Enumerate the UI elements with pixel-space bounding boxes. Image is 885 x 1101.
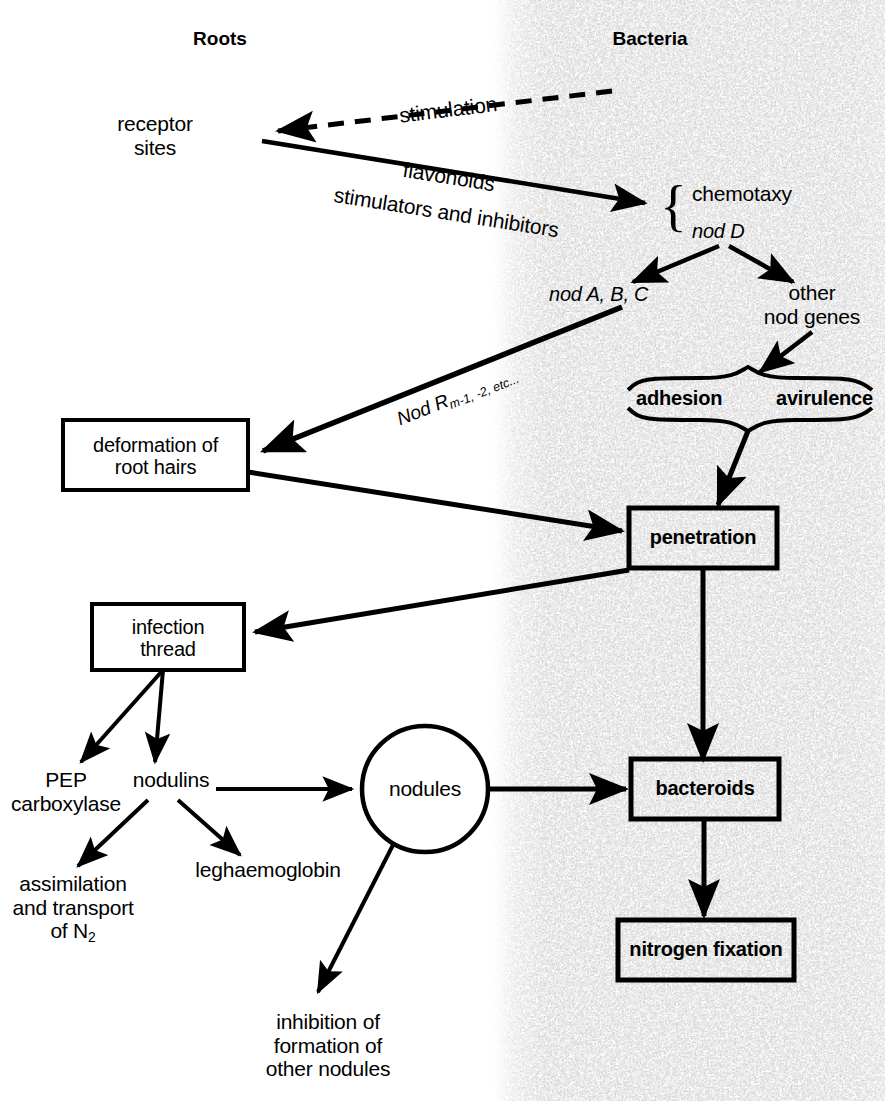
column-header-roots: Roots: [150, 28, 290, 49]
node-assimilation-text: assimilation and transport of N: [12, 872, 133, 942]
node-nodules: nodules: [365, 777, 485, 801]
column-header-bacteria: Bacteria: [570, 28, 730, 49]
node-leghaemoglobin: leghaemoglobin: [178, 858, 358, 882]
node-nitrogen-fixation: nitrogen fixation: [618, 938, 794, 960]
edge-nodulins-to-leghaemoglobin: [178, 800, 240, 855]
edge-nodd-to-nodabc: [633, 246, 719, 282]
node-nod-d: nod D: [692, 220, 744, 242]
node-bacteroids: bacteroids: [631, 777, 779, 799]
edge-infection-to-nodulins: [155, 670, 163, 762]
edge-label-nod-r-main: Nod R: [394, 390, 452, 429]
edge-penetration-to-infection: [255, 570, 629, 632]
node-assimilation-subscript: 2: [88, 929, 96, 945]
node-penetration: penetration: [629, 526, 777, 548]
node-assimilation-transport: assimilation and transport of N2: [3, 872, 143, 945]
node-nodulins: nodulins: [125, 768, 217, 792]
edge-deformation-to-penetration: [248, 472, 622, 531]
brace-bottom-adhesion: [628, 408, 872, 431]
diagram-canvas: Roots Bacteria receptor sites stimulatio…: [0, 0, 885, 1101]
edge-nodd-to-othernod: [729, 246, 793, 282]
node-inhibition-other-nodules: inhibition of formation of other nodules: [228, 1010, 428, 1081]
node-adhesion: adhesion: [636, 387, 722, 409]
edge-othernod-to-brace: [760, 332, 812, 372]
node-avirulence: avirulence: [776, 387, 873, 409]
node-infection-thread: infection thread: [92, 616, 244, 661]
node-deformation-of-root-hairs: deformation of root hairs: [63, 434, 248, 479]
node-other-nod-genes: other nod genes: [742, 281, 882, 328]
node-receptor-sites: receptor sites: [90, 112, 220, 159]
node-pep-carboxylase: PEP carboxylase: [6, 768, 126, 815]
node-chemotaxy: chemotaxy: [692, 182, 792, 206]
node-nod-abc: nod A, B, C: [549, 283, 648, 305]
brace-chemotaxy-nodd: {: [660, 178, 687, 234]
edge-brace-to-penetration: [718, 431, 748, 505]
edge-infection-to-pep: [81, 670, 163, 762]
edge-label-nod-r-sub: m-1, -2, etc...: [447, 372, 521, 412]
